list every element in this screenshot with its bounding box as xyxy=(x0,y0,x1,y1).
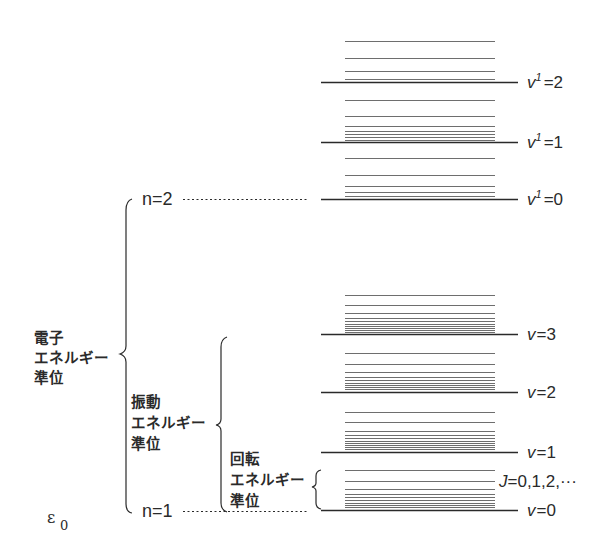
vibrational-brace-label: 振動 エネルギー 準位 xyxy=(131,393,206,452)
electronic-state-label: n=1 xyxy=(142,501,173,521)
svg-text:エネルギー: エネルギー xyxy=(131,415,206,431)
electronic-state-n2: n=2 xyxy=(142,189,308,209)
electronic-brace xyxy=(120,199,132,513)
vibrational-levels xyxy=(321,83,518,511)
svg-text:エネルギー: エネルギー xyxy=(34,350,109,366)
rotational-quantum-label: J=0,1,2,··· xyxy=(498,472,577,491)
epsilon-subscript: 0 xyxy=(60,518,68,533)
rotational-levels xyxy=(345,42,495,508)
vibrational-level-label: v1=2 xyxy=(527,71,563,92)
vibrational-level-label: v=1 xyxy=(527,443,556,462)
svg-text:エネルギー: エネルギー xyxy=(230,472,305,488)
ground-energy-label: ε 0 xyxy=(47,508,68,533)
epsilon-symbol: ε xyxy=(47,508,55,527)
svg-text:準位: 準位 xyxy=(34,369,64,386)
rotational-brace xyxy=(312,470,321,509)
energy-level-diagram: v1=2v1=1v1=0v=3v=2v=1v=0 n=2 n=1 ε 0 電子 … xyxy=(0,0,613,555)
vibrational-level-label: v=2 xyxy=(527,383,556,402)
vibrational-level-label: v=0 xyxy=(527,501,556,520)
electronic-state-label: n=2 xyxy=(142,189,173,209)
svg-text:電子: 電子 xyxy=(34,330,64,346)
svg-text:振動: 振動 xyxy=(131,393,161,410)
svg-text:準位: 準位 xyxy=(230,492,260,509)
j-label: J=0,1,2,··· xyxy=(498,472,577,491)
vibrational-level-label: v1=0 xyxy=(527,188,563,209)
electronic-brace-label: 電子 エネルギー 準位 xyxy=(34,330,109,386)
vibrational-level-label: v1=1 xyxy=(527,131,563,152)
vibrational-brace xyxy=(216,337,227,512)
rotational-brace-label: 回転 エネルギー 準位 xyxy=(230,451,305,509)
svg-text:回転: 回転 xyxy=(230,451,260,467)
svg-text:準位: 準位 xyxy=(131,435,161,452)
vibrational-level-labels: v1=2v1=1v1=0v=3v=2v=1v=0 xyxy=(527,71,563,520)
vibrational-level-label: v=3 xyxy=(527,325,556,344)
